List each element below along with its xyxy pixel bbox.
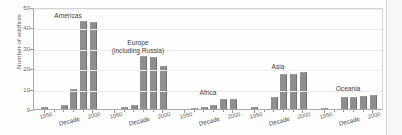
gridline (34, 50, 382, 51)
x-axis-tick-label: 1950 (179, 111, 193, 120)
region-label-americas: Americas (33, 12, 103, 19)
x-axis-tick-label: 2000 (227, 111, 241, 120)
y-axis-tick-labels: 01020304050 (12, 0, 30, 135)
bar (80, 21, 87, 109)
x-axis-tick-label: 2000 (87, 111, 101, 120)
bar (280, 74, 287, 109)
x-axis-minor-tick-mark (283, 110, 284, 112)
x-axis-minor-tick-mark (203, 110, 204, 112)
x-axis-minor-tick-mark (334, 110, 335, 112)
x-axis-minor-tick-mark (124, 110, 125, 112)
x-axis-minor-tick-mark (223, 110, 224, 112)
x-axis-minor-tick-mark (363, 110, 364, 112)
x-axis-tick-label: 1950 (249, 111, 263, 120)
x-axis-minor-tick-mark (194, 110, 195, 112)
x-axis-tick-label: 2000 (367, 111, 381, 120)
x-axis-minor-tick-mark (133, 110, 134, 112)
region-label-line: Europe (103, 39, 173, 46)
bar (290, 74, 297, 109)
x-axis-minor-tick-mark (153, 110, 154, 112)
bar (41, 107, 48, 109)
x-axis-title: Decade (198, 115, 220, 127)
x-axis-tick-label: 2000 (297, 111, 311, 120)
y-axis-tick-label: 40 (16, 25, 30, 31)
region-label-line: Americas (33, 12, 103, 19)
x-axis-title: Decade (58, 115, 80, 127)
bar (61, 105, 68, 109)
y-axis-tick-label: 10 (16, 87, 30, 93)
y-axis-tick-label: 50 (16, 5, 30, 11)
gridline (34, 29, 382, 30)
region-label-europe: Europe(including Russia) (103, 39, 173, 54)
bar (210, 105, 217, 109)
x-axis-minor-tick-mark (63, 110, 64, 112)
x-axis-minor-tick-mark (213, 110, 214, 112)
bar (360, 96, 367, 109)
gridline (34, 70, 382, 71)
gridline (34, 9, 382, 10)
bar (131, 105, 138, 109)
x-axis-title: Decade (338, 115, 360, 127)
bar (191, 108, 198, 109)
x-axis-minor-tick-mark (343, 110, 344, 112)
region-label-africa: Africa (173, 89, 243, 96)
bar (160, 66, 167, 109)
bar (321, 108, 328, 109)
region-label-line: Oceania (313, 85, 383, 92)
region-label-asia: Asia (243, 63, 313, 70)
x-axis-minor-tick-mark (273, 110, 274, 112)
x-axis-tick-label: 2000 (157, 111, 171, 120)
bar (70, 89, 77, 109)
x-axis-minor-tick-mark (143, 110, 144, 112)
bar (350, 97, 357, 109)
x-axis-minor-tick-mark (353, 110, 354, 112)
y-axis-tick-mark (30, 90, 33, 91)
bar (140, 56, 147, 109)
x-axis-minor-tick-mark (54, 110, 55, 112)
wildfires-bar-chart-figure: Number of wildfires 01020304050 Americas… (0, 0, 402, 135)
x-axis-tick-label: 1950 (39, 111, 53, 120)
bar (370, 95, 377, 109)
bar (341, 97, 348, 109)
bar (220, 99, 227, 109)
region-label-line: Africa (173, 89, 243, 96)
x-axis-tick-label: 1950 (319, 111, 333, 120)
region-label-oceania: Oceania (313, 85, 383, 92)
x-axis-minor-tick-mark (264, 110, 265, 112)
bar (271, 97, 278, 109)
x-axis-tick-label: 1950 (109, 111, 123, 120)
bar (201, 107, 208, 109)
bar (230, 99, 237, 109)
region-label-line: (including Russia) (103, 47, 173, 54)
x-axis-title: Decade (128, 115, 150, 127)
page-gutter (387, 0, 402, 135)
y-axis-tick-label: 30 (16, 46, 30, 52)
bar (121, 107, 128, 109)
bar (251, 107, 258, 109)
y-axis-tick-mark (30, 8, 33, 9)
y-axis-tick-mark (30, 110, 33, 111)
bar (90, 22, 97, 109)
y-axis-tick-label: 20 (16, 66, 30, 72)
y-axis-tick-mark (30, 28, 33, 29)
x-axis-minor-tick-mark (83, 110, 84, 112)
y-axis-tick-mark (30, 49, 33, 50)
y-axis-tick-label: 0 (16, 107, 30, 113)
x-axis-title: Decade (268, 115, 290, 127)
region-label-line: Asia (243, 63, 313, 70)
y-axis-tick-mark (30, 69, 33, 70)
bar (150, 57, 157, 109)
x-axis-minor-tick-mark (293, 110, 294, 112)
x-axis-minor-tick-mark (73, 110, 74, 112)
